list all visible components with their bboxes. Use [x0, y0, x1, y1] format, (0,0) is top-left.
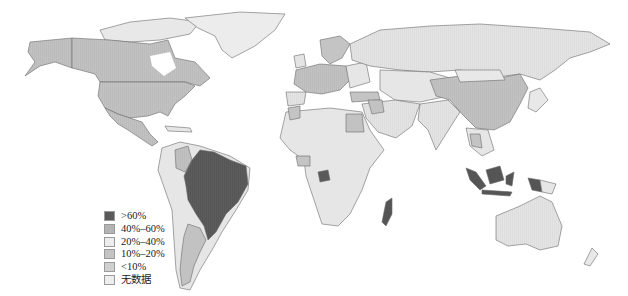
- legend-swatch-10-20: [104, 249, 115, 259]
- region-madagascar: [382, 198, 392, 226]
- region-indonesia-sumatra: [466, 168, 486, 190]
- legend-item-10-20: 10%–20%: [104, 248, 165, 261]
- region-indonesia-java: [482, 190, 512, 196]
- legend-swatch-40-60: [104, 224, 115, 234]
- region-papua-new-guinea: [540, 180, 556, 194]
- map-legend: >60% 40%–60% 20%–40% 10%–20% <10% 无数据: [104, 210, 165, 286]
- region-canada-arctic: [100, 18, 200, 42]
- region-caribbean: [165, 126, 192, 132]
- region-morocco: [288, 106, 300, 120]
- legend-label: 20%–40%: [121, 236, 165, 248]
- legend-label: 无数据: [121, 274, 151, 286]
- region-canada: [72, 38, 210, 86]
- region-new-zealand: [584, 248, 598, 266]
- legend-item-nodata: 无数据: [104, 273, 165, 286]
- world-map: [0, 0, 628, 296]
- legend-swatch-lt10: [104, 262, 115, 272]
- legend-swatch-gt60: [104, 211, 115, 221]
- legend-label: >60%: [121, 210, 146, 222]
- region-indonesia-sulawesi: [506, 172, 514, 186]
- legend-label: 10%–20%: [121, 248, 165, 260]
- region-greenland: [185, 12, 285, 58]
- region-west-africa: [296, 156, 310, 166]
- region-alaska: [25, 38, 72, 76]
- region-india: [418, 100, 460, 150]
- legend-item-lt10: <10%: [104, 261, 165, 274]
- legend-swatch-20-40: [104, 237, 115, 247]
- legend-item-40-60: 40%–60%: [104, 223, 165, 236]
- region-indonesia-borneo: [486, 166, 504, 184]
- legend-label: 40%–60%: [121, 223, 165, 235]
- region-europe-central: [294, 64, 350, 94]
- region-africa: [280, 108, 384, 226]
- legend-swatch-nodata: [104, 275, 115, 285]
- legend-item-20-40: 20%–40%: [104, 235, 165, 248]
- region-scandinavia: [320, 36, 350, 64]
- region-japan: [528, 88, 548, 112]
- region-egypt: [346, 114, 364, 132]
- region-gabon: [318, 170, 330, 182]
- region-iberia: [286, 92, 306, 106]
- region-uk: [294, 54, 306, 68]
- region-eastern-europe: [346, 62, 370, 88]
- region-thailand: [470, 134, 482, 148]
- legend-item-gt60: >60%: [104, 210, 165, 223]
- region-mongolia: [455, 70, 505, 82]
- region-australia: [496, 196, 562, 250]
- legend-label: <10%: [121, 261, 146, 273]
